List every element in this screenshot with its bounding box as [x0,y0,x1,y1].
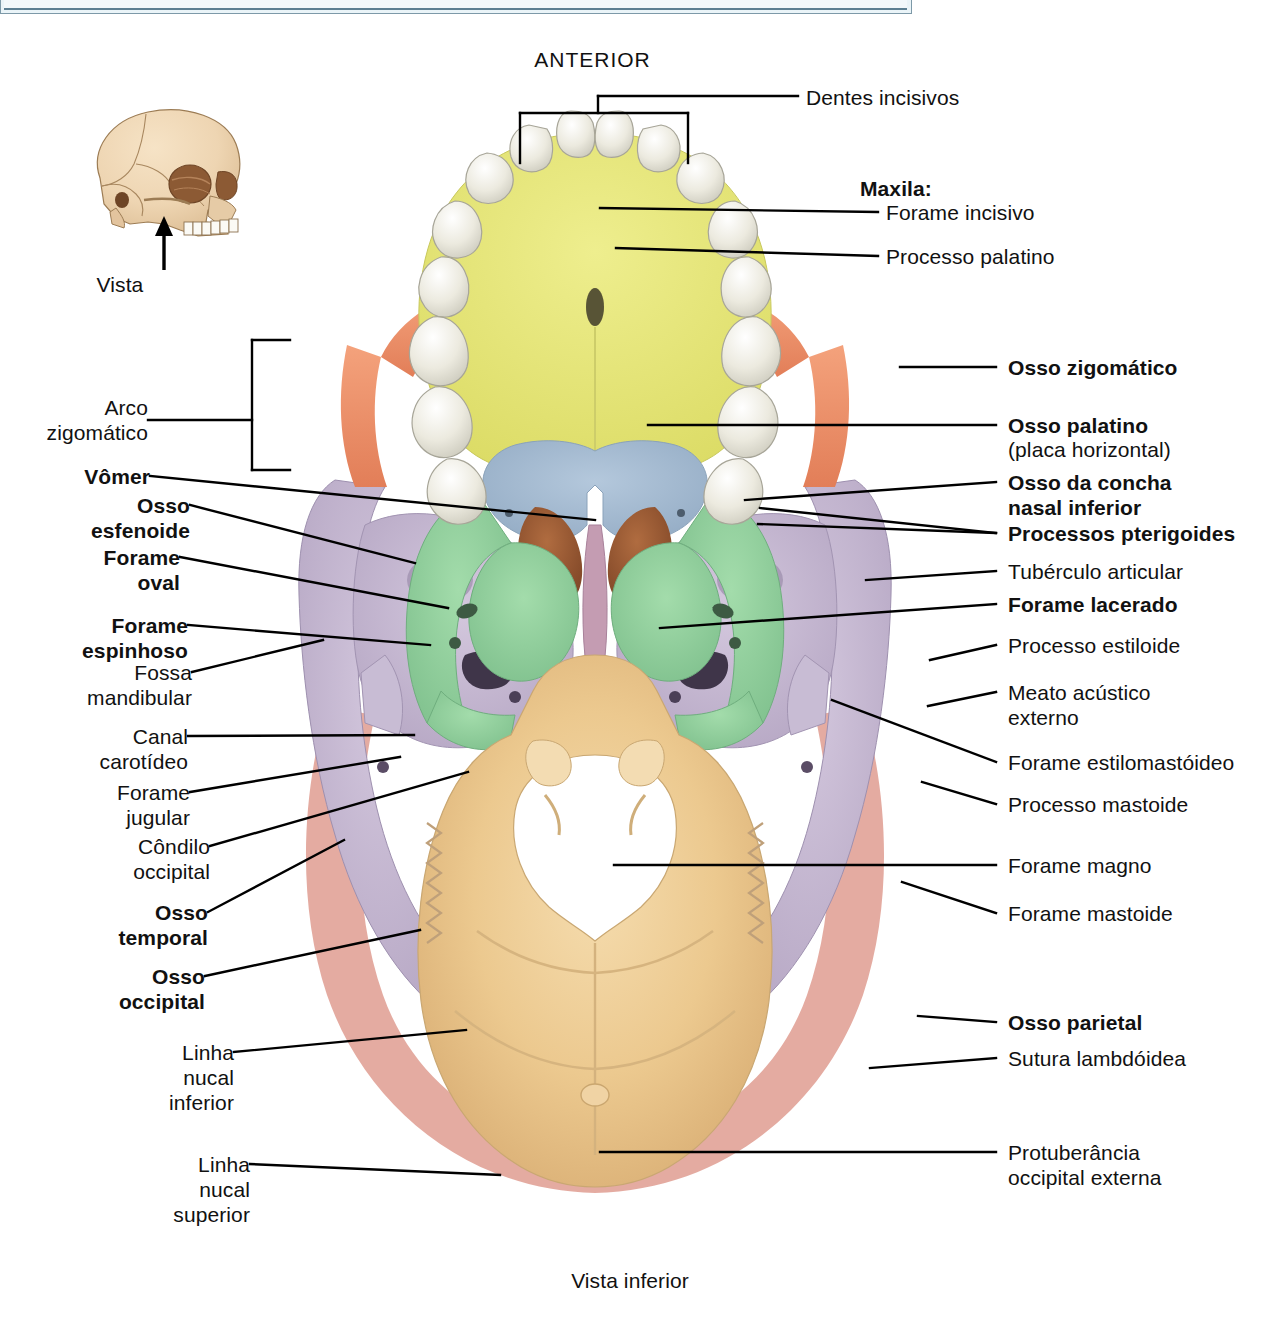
label-forame-lacerado: Forame lacerado [1008,592,1178,617]
page-header-banner-rule [4,0,907,10]
label-osso-occipital: Osso occipital [0,964,205,1014]
label-vomer: Vômer [0,464,150,489]
label-tuberculo-articular: Tubérculo articular [1008,559,1183,584]
label-forame-jugular: Forame jugular [0,780,190,830]
label-osso-zigomatico: Osso zigomático [1008,355,1178,380]
label-sutura-lambdoidea: Sutura lambdóidea [1008,1046,1186,1071]
skull-inferior-view-illustration [215,95,975,1230]
label-linha-nucal-inferior: Linha nucal inferior [0,1040,234,1115]
page-header-banner [0,0,912,14]
label-processo-estiloide: Processo estiloide [1008,633,1180,658]
label-forame-mastoide: Forame mastoide [1008,901,1173,926]
label-dentes-incisivos: Dentes incisivos [806,85,959,110]
label-osso-temporal: Osso temporal [0,900,208,950]
label-osso-palatino: Osso palatino [1008,413,1148,438]
inset-vista-label: Vista [40,272,200,297]
label-forame-incisivo: Forame incisivo [886,200,1035,225]
label-forame-magno: Forame magno [1008,853,1152,878]
label-condilo-occipital: Côndilo occipital [0,834,210,884]
label-fossa-mandibular: Fossa mandibular [0,660,192,710]
label-osso-esfenoide: Osso esfenoide [0,493,190,543]
label-processos-pterigoides: Processos pterigoides [1008,521,1235,546]
label-forame-espinhoso: Forame espinhoso [0,613,188,663]
figure-page: Vista ANTERIOR [0,0,1283,1318]
label-maxila: Maxila: [860,176,932,201]
label-osso-palatino-sub: (placa horizontal) [1008,437,1171,462]
label-processo-palatino: Processo palatino [886,244,1055,269]
label-meato-acustico-externo: Meato acústico externo [1008,680,1151,730]
label-protuberancia-occipital-externa: Protuberância occipital externa [1008,1140,1161,1190]
label-arco-zigomatico: Arco zigomático [0,395,148,445]
figure-caption: Vista inferior [480,1268,780,1293]
label-linha-nucal-superior: Linha nucal superior [0,1152,250,1227]
label-forame-estilomastoideo: Forame estilomastóideo [1008,750,1234,775]
orientation-label-anterior: ANTERIOR [475,47,710,72]
label-osso-parietal: Osso parietal [1008,1010,1142,1035]
label-osso-concha-nasal-inferior: Osso da concha nasal inferior [1008,470,1172,520]
label-processo-mastoide: Processo mastoide [1008,792,1188,817]
label-forame-oval: Forame oval [0,545,180,595]
label-canal-carotideo: Canal carotídeo [0,724,188,774]
